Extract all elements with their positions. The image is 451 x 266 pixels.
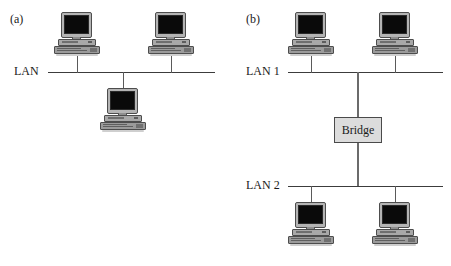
drop-line-b-lan1-left [311,56,312,73]
power-led [134,117,138,119]
drive-slot [156,41,172,43]
power-led [88,41,92,43]
drive-slot [62,41,78,43]
key-row-lower [291,240,321,241]
computer-a-top-left [54,12,100,56]
computer-b-lan1-right [372,12,418,56]
keypad [324,48,331,52]
power-led [182,41,186,43]
keypad [324,238,331,242]
key-row-lower [151,50,181,51]
monitor-screen [298,15,323,34]
keypad [90,48,97,52]
key-row-upper [103,124,127,125]
computer-a-top-right [148,12,194,56]
monitor-screen [298,205,323,224]
key-row-lower [375,240,405,241]
key-row-lower [103,126,133,127]
drive-slot [296,41,312,43]
lan1-label: LAN 1 [246,64,280,79]
monitor-screen [382,205,407,224]
key-row-upper [291,48,315,49]
drive-slot [380,231,396,233]
bridge-trunk-upper [357,72,359,118]
panel-b-label: (b) [246,12,260,27]
drop-line-a-top-left [77,56,78,73]
bridge-box: Bridge [334,117,382,143]
power-led [322,231,326,233]
key-row-lower [375,50,405,51]
power-led [322,41,326,43]
keypad [408,238,415,242]
key-row-upper [151,48,175,49]
monitor-screen [110,91,135,110]
monitor-screen [382,15,407,34]
key-row-lower [57,50,87,51]
drop-line-a-top-right [171,56,172,73]
drop-line-b-lan1-right [395,56,396,73]
computer-b-lan2-left [288,202,334,246]
icon-shadow [374,244,416,246]
key-row-upper [291,238,315,239]
drop-line-b-lan2-left [311,186,312,203]
network-topology-figure: (a) LAN [0,0,451,266]
keypad [136,124,143,128]
icon-shadow [102,130,144,132]
bridge-label: Bridge [342,123,375,138]
lan-bus-line-a [48,72,215,73]
key-row-upper [375,238,399,239]
computer-a-bottom-center [100,88,146,132]
drop-line-a-bottom-center [123,72,124,89]
key-row-upper [57,48,81,49]
monitor-screen [158,15,183,34]
icon-shadow [290,244,332,246]
bridge-trunk-lower [357,143,359,186]
lan2-label: LAN 2 [246,178,280,193]
keypad [408,48,415,52]
lan-label-a: LAN [14,64,39,79]
drop-line-b-lan2-right [395,186,396,203]
power-led [406,41,410,43]
computer-b-lan2-right [372,202,418,246]
panel-a-label: (a) [10,12,23,27]
drive-slot [380,41,396,43]
keypad [184,48,191,52]
drive-slot [296,231,312,233]
drive-slot [108,117,124,119]
power-led [406,231,410,233]
computer-b-lan1-left [288,12,334,56]
key-row-lower [291,50,321,51]
monitor-screen [64,15,89,34]
key-row-upper [375,48,399,49]
